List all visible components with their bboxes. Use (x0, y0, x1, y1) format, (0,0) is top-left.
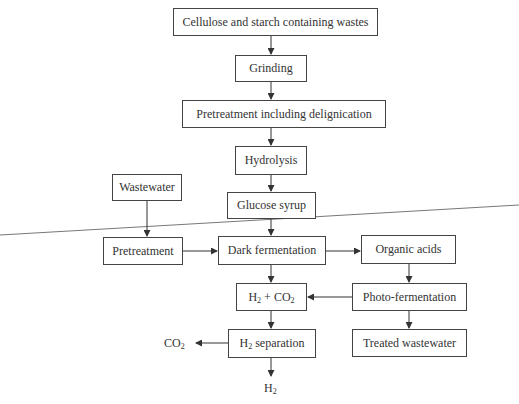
node-label: Cellulose and starch containing wastes (183, 15, 369, 30)
node-grinding: Grinding (235, 55, 307, 82)
node-label: Treated wastewater (363, 336, 456, 351)
node-treated-wastewater: Treated wastewater (352, 329, 467, 357)
node-label: Pretreatment (112, 244, 173, 259)
node-pretreatment-delignication: Pretreatment including delignication (182, 100, 386, 128)
output-h2-label: H2 (264, 381, 277, 396)
node-photo-fermentation: Photo-fermentation (352, 283, 467, 311)
node-label: Wastewater (119, 180, 175, 195)
output-co2-label: CO2 (164, 336, 185, 351)
node-label: Dark fermentation (228, 243, 316, 258)
node-h2-separation: H2 separation (228, 329, 316, 358)
node-glucose-syrup: Glucose syrup (227, 192, 316, 219)
node-h2-co2: H2 + CO2 (236, 283, 307, 311)
node-wastewater: Wastewater (112, 174, 182, 201)
node-organic-acids: Organic acids (361, 235, 456, 264)
node-label: Glucose syrup (237, 198, 306, 213)
node-label: Hydrolysis (245, 153, 298, 168)
node-label: Organic acids (375, 242, 441, 257)
node-label: Pretreatment including delignication (196, 107, 371, 122)
node-hydrolysis: Hydrolysis (235, 146, 307, 175)
node-cellulose-starch-wastes: Cellulose and starch containing wastes (173, 8, 378, 36)
node-dark-fermentation: Dark fermentation (218, 236, 326, 265)
node-label: Photo-fermentation (363, 290, 456, 305)
flowchart-canvas: Cellulose and starch containing wastes G… (0, 0, 519, 404)
node-pretreatment: Pretreatment (103, 237, 183, 265)
node-label: H2 + CO2 (248, 290, 294, 305)
node-label: H2 separation (240, 336, 305, 351)
node-label: Grinding (249, 61, 292, 76)
